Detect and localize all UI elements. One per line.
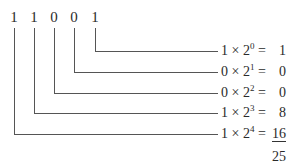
connector-vertical-bit1 xyxy=(74,28,75,72)
term-bit1: 0 × 21 = xyxy=(221,64,266,80)
connector-vertical-bit3 xyxy=(34,28,35,113)
equals-symbol: = xyxy=(258,105,266,120)
connector-horizontal-bit3 xyxy=(34,113,218,114)
term-coef: 1 xyxy=(221,43,228,58)
term-coef: 0 xyxy=(221,85,228,100)
times-symbol: × xyxy=(232,43,240,58)
sum-total: 25 xyxy=(268,149,286,165)
binary-digit-0: 1 xyxy=(90,8,100,26)
term-base: 2 xyxy=(243,85,250,100)
term-coef: 1 xyxy=(221,126,228,141)
times-symbol: × xyxy=(232,126,240,141)
term-coef: 0 xyxy=(221,64,228,79)
term-result-bit1: 0 xyxy=(268,64,286,80)
term-coef: 1 xyxy=(221,105,228,120)
term-exponent: 2 xyxy=(250,83,255,93)
times-symbol: × xyxy=(232,105,240,120)
term-result-bit0: 1 xyxy=(268,43,286,59)
term-bit3: 1 × 23 = xyxy=(221,105,266,121)
connector-vertical-bit2 xyxy=(54,28,55,93)
term-exponent: 1 xyxy=(250,62,255,72)
term-base: 2 xyxy=(243,105,250,120)
binary-digit-3: 1 xyxy=(29,8,39,26)
connector-horizontal-bit1 xyxy=(74,72,218,73)
term-exponent: 3 xyxy=(250,103,255,113)
binary-digit-2: 0 xyxy=(49,8,59,26)
connector-horizontal-bit0 xyxy=(95,51,218,52)
term-exponent: 0 xyxy=(250,41,255,51)
term-result-bit2: 0 xyxy=(268,85,286,101)
term-bit0: 1 × 20 = xyxy=(221,43,266,59)
term-base: 2 xyxy=(243,64,250,79)
term-bit2: 0 × 22 = xyxy=(221,85,266,101)
connector-horizontal-bit2 xyxy=(54,93,218,94)
connector-horizontal-bit4 xyxy=(14,134,218,135)
term-result-value: 16 xyxy=(272,126,286,142)
term-result-bit3: 8 xyxy=(268,105,286,121)
term-base: 2 xyxy=(243,126,250,141)
connector-vertical-bit4 xyxy=(14,28,15,134)
connector-vertical-bit0 xyxy=(95,28,96,51)
equals-symbol: = xyxy=(258,126,266,141)
equals-symbol: = xyxy=(258,43,266,58)
term-bit4: 1 × 24 = xyxy=(221,126,266,142)
times-symbol: × xyxy=(232,64,240,79)
binary-digit-1: 0 xyxy=(69,8,79,26)
term-base: 2 xyxy=(243,43,250,58)
term-result-bit4: 16 xyxy=(268,126,286,142)
times-symbol: × xyxy=(232,85,240,100)
binary-digit-4: 1 xyxy=(9,8,19,26)
equals-symbol: = xyxy=(258,85,266,100)
equals-symbol: = xyxy=(258,64,266,79)
term-exponent: 4 xyxy=(250,124,255,134)
